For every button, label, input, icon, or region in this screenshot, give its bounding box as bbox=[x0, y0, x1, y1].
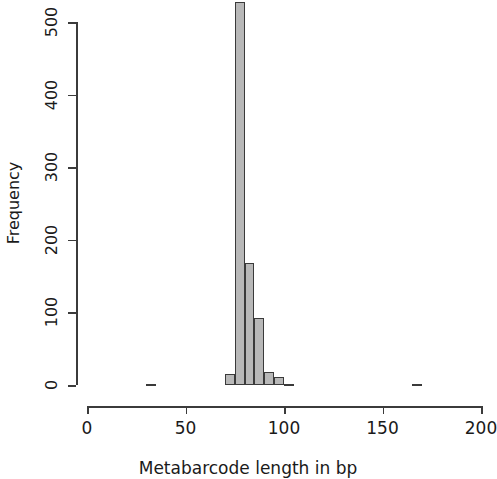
histogram-bar bbox=[274, 377, 284, 385]
x-axis-tick bbox=[383, 406, 385, 414]
histogram-bar bbox=[264, 372, 274, 385]
histogram-bar bbox=[284, 384, 294, 386]
y-axis-tick bbox=[68, 240, 76, 242]
x-axis-tick bbox=[87, 406, 89, 414]
x-axis-tick bbox=[186, 406, 188, 414]
x-axis-tick-label: 0 bbox=[82, 420, 93, 437]
x-axis-tick-label: 100 bbox=[268, 420, 300, 437]
histogram-bar bbox=[146, 384, 156, 386]
x-axis-title: Metabarcode length in bp bbox=[0, 460, 496, 477]
y-axis-tick bbox=[68, 22, 76, 24]
histogram-bar bbox=[245, 263, 255, 385]
x-axis-tick bbox=[284, 406, 286, 414]
histogram-bar bbox=[235, 2, 245, 385]
x-axis-tick bbox=[481, 406, 483, 414]
histogram-bar bbox=[254, 318, 264, 385]
y-axis-tick bbox=[68, 167, 76, 169]
y-axis-line bbox=[76, 22, 78, 385]
y-axis-tick bbox=[68, 312, 76, 314]
y-axis-tick bbox=[68, 95, 76, 97]
x-axis-tick-label: 200 bbox=[465, 420, 497, 437]
x-axis-tick-label: 150 bbox=[366, 420, 398, 437]
x-axis-tick-label: 50 bbox=[175, 420, 197, 437]
histogram-bar bbox=[225, 374, 235, 385]
y-axis-title: Frequency bbox=[6, 162, 22, 245]
histogram-bar bbox=[412, 384, 422, 386]
y-axis-tick bbox=[68, 385, 76, 387]
